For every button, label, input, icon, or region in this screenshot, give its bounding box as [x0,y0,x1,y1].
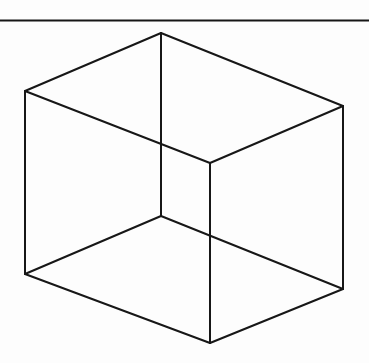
figure-background [0,0,369,363]
necker-cube-figure [0,0,369,363]
figure-page [0,0,369,363]
